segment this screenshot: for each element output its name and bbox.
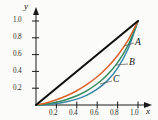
- x-tick-label-0-4: 0.4: [69, 110, 77, 117]
- y-axis: [33, 7, 39, 105]
- y-tick-label-0-2: 0.2: [13, 85, 21, 92]
- x-tick-label-0-8: 0.8: [110, 110, 118, 117]
- curve-label-a: A: [135, 37, 141, 47]
- y-axis-label: y: [24, 1, 28, 11]
- x-tick-label-0-6: 0.6: [90, 110, 98, 117]
- y-tick-label-0-6: 0.6: [13, 51, 21, 58]
- curve-label-b: B: [129, 57, 135, 67]
- curve-diagonal: [36, 21, 138, 105]
- x-axis-label: x: [146, 106, 150, 116]
- y-tick-label-0-8: 0.8: [13, 34, 21, 41]
- y-tick-label-0-4: 0.4: [13, 68, 21, 75]
- curve-label-c: C: [113, 74, 119, 84]
- y-tick-label-1-0: 1.0: [13, 17, 21, 24]
- x-tick-label-0-2: 0.2: [49, 110, 57, 117]
- x-tick-label-1-0: 1.0: [130, 110, 138, 117]
- chart-figure: y x 1.0 0.8 0.6 0.4 0.2 0.2 0.4 0.6 0.8 …: [0, 0, 158, 120]
